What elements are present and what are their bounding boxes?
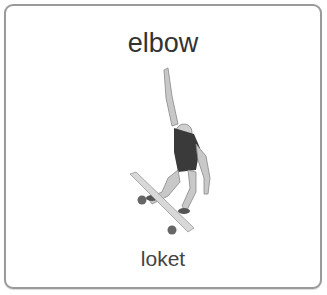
flashcard: elbow loket <box>4 4 322 289</box>
card-translation: loket <box>6 247 320 271</box>
card-word: elbow <box>6 28 320 59</box>
skateboarder-jumping-icon <box>124 66 224 238</box>
